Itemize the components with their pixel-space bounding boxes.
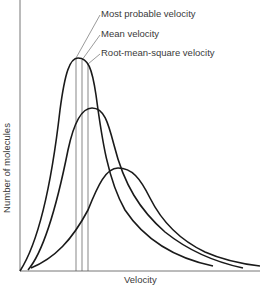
rms-leader	[88, 54, 100, 64]
y-axis-label: Number of molecules	[2, 123, 12, 213]
velocity-distribution-chart	[0, 0, 260, 290]
rms-label: Root-mean-square velocity	[101, 48, 215, 58]
x-axis-label: Velocity	[124, 275, 157, 285]
curve-2	[28, 108, 243, 270]
curve-3	[31, 168, 260, 268]
mean-label: Mean velocity	[101, 29, 159, 39]
most-probable-label: Most probable velocity	[101, 9, 196, 19]
